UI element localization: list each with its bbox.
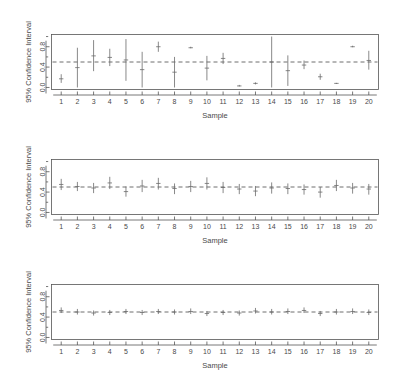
- panel-1: 0.00.40.895% Confidence Interval12345678…: [0, 0, 394, 125]
- x-tick-label: 2: [75, 98, 79, 105]
- x-tick-label: 4: [108, 98, 112, 105]
- x-tick-label: 11: [219, 223, 226, 230]
- x-tick-label: 3: [92, 348, 96, 355]
- x-tick-label: 5: [124, 223, 128, 230]
- confidence-interval-figure: 0.00.40.895% Confidence Interval12345678…: [0, 0, 394, 375]
- x-tick-label: 15: [284, 98, 292, 105]
- y-tick-label: 0.8: [40, 42, 47, 52]
- x-tick-label: 20: [365, 223, 373, 230]
- x-tick-label: 15: [284, 348, 292, 355]
- x-tick-label: 18: [333, 348, 341, 355]
- x-tick-label: 8: [173, 223, 177, 230]
- x-axis-title: Sample: [202, 361, 227, 370]
- x-tick-label: 20: [365, 98, 373, 105]
- y-tick-label: 0.8: [40, 292, 47, 302]
- x-tick-label: 13: [252, 223, 260, 230]
- panel-2: 0.00.40.895% Confidence Interval12345678…: [0, 125, 394, 250]
- x-axis-title: Sample: [202, 111, 227, 120]
- x-tick-label: 3: [92, 223, 96, 230]
- y-axis-title: 95% Confidence Interval: [24, 271, 33, 353]
- x-tick-label: 7: [156, 348, 160, 355]
- x-tick-label: 17: [316, 348, 324, 355]
- x-tick-label: 4: [108, 223, 112, 230]
- x-tick-label: 2: [75, 223, 79, 230]
- x-tick-label: 11: [219, 98, 226, 105]
- y-tick-label: 0.4: [40, 62, 47, 72]
- x-tick-label: 7: [156, 98, 160, 105]
- x-tick-label: 16: [300, 98, 308, 105]
- x-tick-label: 17: [316, 223, 324, 230]
- y-tick-label: 0.4: [40, 187, 47, 197]
- y-tick-label: 0.4: [40, 312, 47, 322]
- x-tick-label: 9: [189, 98, 193, 105]
- panel-plot-1: 0.00.40.895% Confidence Interval12345678…: [0, 0, 394, 125]
- x-tick-label: 11: [219, 348, 226, 355]
- x-tick-label: 13: [252, 348, 260, 355]
- x-tick-label: 19: [349, 223, 357, 230]
- x-tick-label: 19: [349, 348, 357, 355]
- x-tick-label: 10: [203, 348, 211, 355]
- x-tick-label: 13: [252, 98, 260, 105]
- x-tick-label: 6: [140, 98, 144, 105]
- x-tick-label: 10: [203, 98, 211, 105]
- y-tick-label: 0.8: [40, 167, 47, 177]
- x-tick-label: 16: [300, 348, 308, 355]
- panel-3: 0.00.40.895% Confidence Interval12345678…: [0, 250, 394, 375]
- x-tick-label: 1: [59, 348, 63, 355]
- x-tick-label: 18: [333, 223, 341, 230]
- x-tick-label: 16: [300, 223, 308, 230]
- x-tick-label: 14: [268, 348, 276, 355]
- x-tick-label: 15: [284, 223, 292, 230]
- x-tick-label: 12: [235, 348, 243, 355]
- x-tick-label: 7: [156, 223, 160, 230]
- panel-plot-3: 0.00.40.895% Confidence Interval12345678…: [0, 250, 394, 375]
- x-tick-label: 9: [189, 223, 193, 230]
- x-tick-label: 19: [349, 98, 357, 105]
- x-tick-label: 5: [124, 98, 128, 105]
- x-tick-label: 9: [189, 348, 193, 355]
- x-tick-label: 17: [316, 98, 324, 105]
- x-tick-label: 14: [268, 98, 276, 105]
- panel-plot-2: 0.00.40.895% Confidence Interval12345678…: [0, 125, 394, 250]
- y-tick-label: 0.0: [40, 82, 47, 92]
- x-tick-label: 10: [203, 223, 211, 230]
- x-tick-label: 5: [124, 348, 128, 355]
- x-tick-label: 1: [59, 223, 63, 230]
- y-tick-label: 0.0: [40, 207, 47, 217]
- x-tick-label: 8: [173, 348, 177, 355]
- x-tick-label: 18: [333, 98, 341, 105]
- x-tick-label: 4: [108, 348, 112, 355]
- y-tick-label: 0.0: [40, 332, 47, 342]
- x-tick-label: 3: [92, 98, 96, 105]
- x-tick-label: 14: [268, 223, 276, 230]
- y-axis-title: 95% Confidence Interval: [24, 21, 33, 103]
- y-axis-title: 95% Confidence Interval: [24, 146, 33, 228]
- x-axis-title: Sample: [202, 236, 227, 245]
- x-tick-label: 6: [140, 348, 144, 355]
- x-tick-label: 8: [173, 98, 177, 105]
- x-tick-label: 20: [365, 348, 373, 355]
- x-tick-label: 12: [235, 223, 243, 230]
- x-tick-label: 12: [235, 98, 243, 105]
- x-tick-label: 6: [140, 223, 144, 230]
- x-tick-label: 2: [75, 348, 79, 355]
- x-tick-label: 1: [59, 98, 63, 105]
